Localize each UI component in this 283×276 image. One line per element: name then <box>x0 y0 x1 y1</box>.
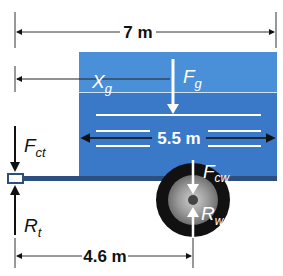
tank-length-label: 5.5 m <box>157 129 200 148</box>
rt-arrow <box>10 185 20 235</box>
wheelbase-label: 4.6 m <box>83 247 126 266</box>
overall-length-label: 7 m <box>123 23 152 42</box>
fct-arrow <box>10 126 20 172</box>
tank <box>79 52 277 181</box>
rt-label: Rt <box>24 215 43 240</box>
trailer-diagram: 7 m Xg Fg 5.5 m Fct Rt Fcw Rw 4.6 m <box>0 0 283 276</box>
fct-label: Fct <box>24 135 47 160</box>
rw-arrow <box>187 207 199 268</box>
